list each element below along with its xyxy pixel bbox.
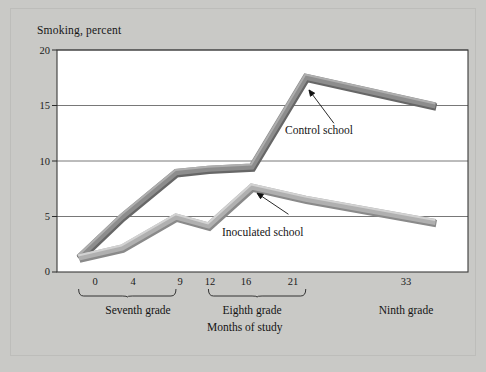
series-annotation-control: Control school xyxy=(285,124,353,136)
y-tick-label-5: 5 xyxy=(24,211,50,222)
y-axis-ticks xyxy=(52,50,57,272)
bracket-seventh-grade xyxy=(79,289,176,297)
x-tick-label-0: 0 xyxy=(82,276,108,287)
y-tick-label-10: 10 xyxy=(24,156,50,167)
chart-svg xyxy=(0,0,486,372)
grade-brackets xyxy=(79,289,306,297)
grade-label-ninth: Ninth grade xyxy=(346,304,466,316)
grade-label-eighth: Eighth grade xyxy=(192,304,312,316)
y-axis-title: Smoking, percent xyxy=(37,24,121,36)
x-axis-title: Months of study xyxy=(207,321,282,333)
series-annotation-inoculated: Inoculated school xyxy=(222,226,303,238)
grade-label-seventh: Seventh grade xyxy=(78,304,198,316)
figure-canvas: Smoking, percent 20 15 10 5 0 0 4 9 12 1… xyxy=(0,0,486,372)
x-tick-label-12: 12 xyxy=(197,276,223,287)
y-tick-label-0: 0 xyxy=(24,266,50,277)
x-tick-label-4: 4 xyxy=(120,276,146,287)
x-tick-label-16: 16 xyxy=(233,276,259,287)
y-tick-label-20: 20 xyxy=(24,45,50,56)
x-tick-label-33: 33 xyxy=(393,276,419,287)
bracket-eighth-grade xyxy=(208,289,305,297)
y-tick-label-15: 15 xyxy=(24,100,50,111)
x-tick-label-21: 21 xyxy=(280,276,306,287)
x-tick-label-9: 9 xyxy=(167,276,193,287)
